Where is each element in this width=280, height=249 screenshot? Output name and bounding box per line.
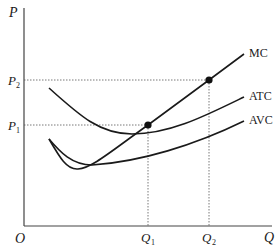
avc-label: AVC [249, 113, 273, 127]
x-axis-label: Q [264, 230, 274, 245]
atc-label: ATC [249, 89, 272, 103]
q1-label: Q 1 [141, 230, 155, 247]
svg-text:1: 1 [16, 126, 20, 135]
y-axis-label: P [8, 5, 18, 20]
q2-label: Q 2 [202, 230, 216, 247]
cost-curves-diagram: P Q O P 2 P 1 Q 1 Q 2 MC ATC AVC [0, 0, 280, 249]
point-p2-q2 [205, 76, 212, 83]
point-p1-q1 [144, 121, 151, 128]
svg-text:Q: Q [141, 230, 151, 245]
p2-label: P 2 [7, 73, 20, 90]
svg-text:2: 2 [16, 81, 20, 90]
svg-text:Q: Q [202, 230, 212, 245]
svg-text:P: P [7, 118, 16, 133]
origin-label: O [15, 231, 25, 246]
mc-label: MC [249, 46, 268, 60]
svg-text:2: 2 [212, 238, 216, 247]
svg-text:P: P [7, 73, 16, 88]
p1-label: P 1 [7, 118, 20, 135]
svg-text:1: 1 [151, 238, 155, 247]
